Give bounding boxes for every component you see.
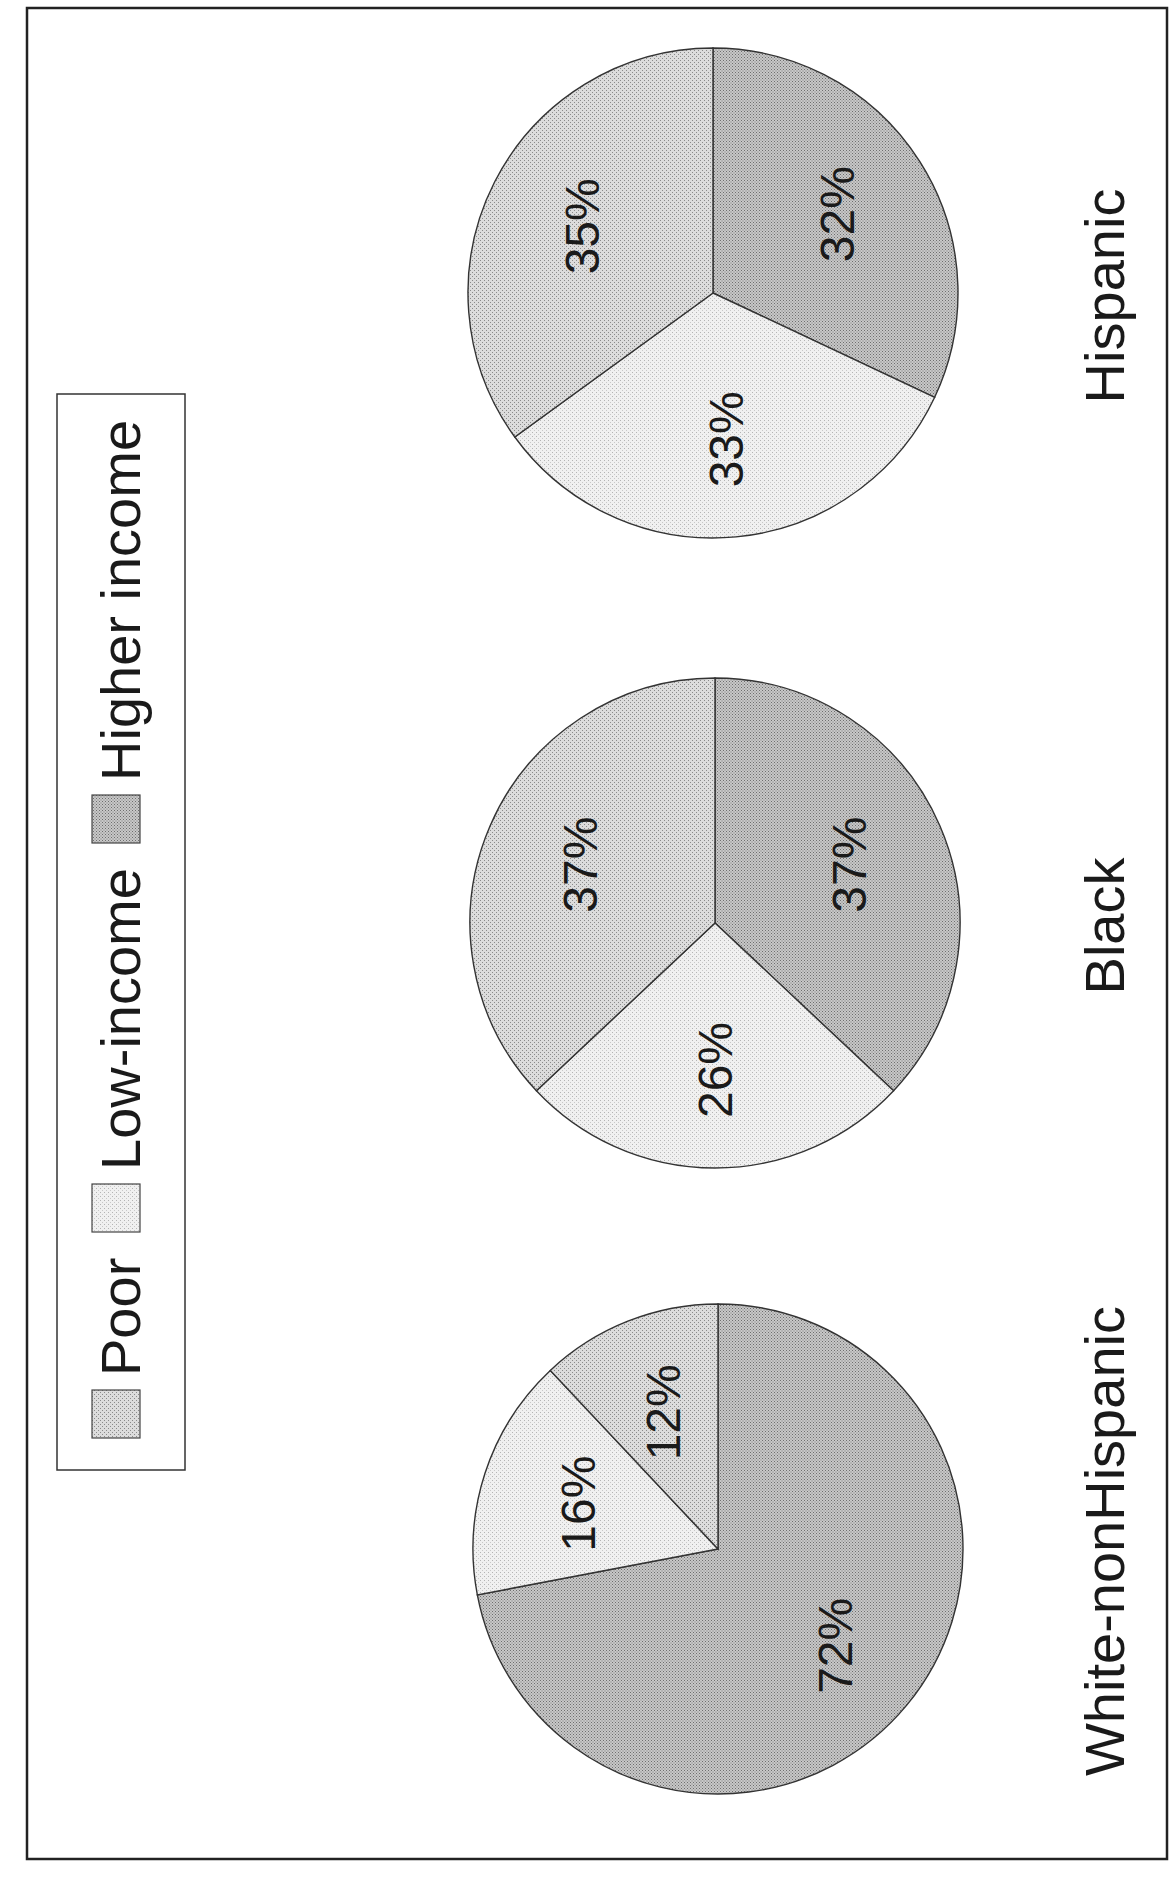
legend-swatch-poor	[92, 1390, 140, 1438]
chart-canvas: Poor Low-income Higher income 32%33%35%3…	[0, 0, 1169, 1883]
group-label-white-nonhispanic: White-nonHispanic	[1073, 1306, 1136, 1776]
pie-white-nonhispanic: 72%16%12%	[473, 1304, 963, 1794]
slice-label-low: 33%	[700, 391, 753, 487]
legend-swatch-low-income	[92, 1184, 140, 1232]
pies: 32%33%35%37%26%37%72%16%12%	[468, 48, 963, 1794]
legend-label-low-income: Low-income	[89, 868, 152, 1170]
legend: Poor Low-income Higher income	[57, 394, 185, 1470]
slice-label-poor: 37%	[554, 817, 607, 913]
legend-label-higher-income: Higher income	[89, 420, 152, 781]
slice-label-higher: 37%	[823, 817, 876, 913]
legend-swatch-higher-income	[92, 795, 140, 843]
slice-label-poor: 35%	[556, 178, 609, 274]
slice-label-higher: 32%	[811, 166, 864, 262]
group-label-black: Black	[1073, 857, 1136, 995]
legend-label-poor: Poor	[89, 1258, 152, 1376]
group-label-hispanic: Hispanic	[1073, 189, 1136, 404]
pie-black: 37%26%37%	[470, 678, 960, 1168]
slice-label-low: 26%	[689, 1022, 742, 1118]
slice-label-poor: 12%	[637, 1364, 690, 1460]
slice-label-higher: 72%	[809, 1598, 862, 1694]
slice-label-low: 16%	[552, 1456, 605, 1552]
pie-hispanic: 32%33%35%	[468, 48, 958, 538]
